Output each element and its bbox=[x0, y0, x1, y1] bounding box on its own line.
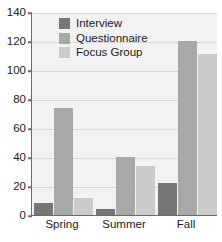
y-tick-mark bbox=[28, 70, 32, 72]
bar-chart: 020406080100120140 InterviewQuestionnair… bbox=[0, 0, 222, 242]
y-tick-label: 40 bbox=[0, 152, 26, 164]
bar bbox=[198, 54, 217, 215]
bar bbox=[34, 203, 53, 215]
y-tick-label: 20 bbox=[0, 181, 26, 193]
legend-swatch bbox=[59, 18, 70, 29]
plot-area: InterviewQuestionnaireFocus Group bbox=[31, 13, 217, 216]
y-tick-label: 60 bbox=[0, 123, 26, 135]
x-tick-label: Summer bbox=[102, 219, 145, 231]
bar bbox=[178, 41, 197, 215]
bar bbox=[158, 183, 177, 215]
y-tick-mark bbox=[28, 128, 32, 130]
legend-swatch bbox=[59, 47, 70, 58]
y-tick-mark bbox=[28, 99, 32, 101]
y-tick-mark bbox=[28, 41, 32, 43]
y-tick-mark bbox=[28, 215, 32, 217]
y-tick-mark bbox=[28, 12, 32, 14]
bar bbox=[74, 198, 93, 215]
bar bbox=[54, 108, 73, 215]
bar bbox=[96, 209, 115, 215]
bar bbox=[116, 157, 135, 215]
y-tick-label: 140 bbox=[0, 7, 26, 19]
y-tick-mark bbox=[28, 186, 32, 188]
legend-item: Questionnaire bbox=[59, 33, 148, 45]
x-tick-label: Spring bbox=[45, 219, 78, 231]
x-tick-label: Fall bbox=[177, 219, 196, 231]
bar bbox=[136, 166, 155, 215]
y-tick-label: 100 bbox=[0, 65, 26, 77]
chart-legend: InterviewQuestionnaireFocus Group bbox=[59, 18, 148, 59]
bar-group bbox=[158, 13, 217, 215]
legend-item: Focus Group bbox=[59, 47, 148, 59]
y-tick-label: 80 bbox=[0, 94, 26, 106]
legend-label: Interview bbox=[76, 18, 122, 30]
legend-item: Interview bbox=[59, 18, 148, 30]
y-tick-label: 120 bbox=[0, 36, 26, 48]
y-tick-mark bbox=[28, 157, 32, 159]
legend-swatch bbox=[59, 33, 70, 44]
y-tick-label: 0 bbox=[0, 210, 26, 222]
legend-label: Questionnaire bbox=[76, 33, 148, 45]
legend-label: Focus Group bbox=[76, 47, 142, 59]
